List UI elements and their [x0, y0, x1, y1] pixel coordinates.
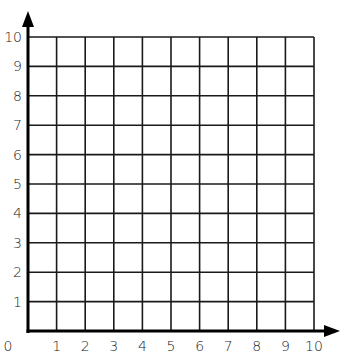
x-tick-label: 8 — [252, 338, 261, 353]
y-tick-label: 1 — [13, 294, 22, 310]
x-axis-labels: 012345678910 — [4, 338, 323, 353]
x-tick-label: 9 — [281, 338, 290, 353]
x-tick-label: 4 — [138, 338, 147, 353]
x-tick-label: 6 — [195, 338, 204, 353]
y-tick-label: 8 — [13, 88, 22, 104]
grid-lines — [28, 37, 314, 331]
y-axis-arrow-icon — [22, 11, 34, 27]
x-tick-label: 2 — [81, 338, 90, 353]
y-tick-label: 10 — [4, 29, 22, 45]
y-tick-label: 6 — [13, 147, 22, 163]
y-tick-label: 2 — [13, 264, 22, 280]
x-tick-label: 3 — [109, 338, 118, 353]
x-tick-label: 10 — [305, 338, 323, 353]
x-axis-arrow-icon — [324, 325, 340, 337]
y-axis-labels: 12345678910 — [4, 29, 22, 310]
x-tick-label: 7 — [224, 338, 233, 353]
coordinate-grid: 012345678910 12345678910 — [0, 0, 343, 353]
y-tick-label: 5 — [13, 176, 22, 192]
x-tick-label: 0 — [4, 338, 13, 353]
x-tick-label: 5 — [167, 338, 176, 353]
grid-canvas: 012345678910 12345678910 — [0, 0, 343, 353]
y-tick-label: 7 — [13, 117, 22, 133]
axes — [22, 11, 340, 337]
x-tick-label: 1 — [52, 338, 61, 353]
y-tick-label: 4 — [13, 205, 22, 221]
y-tick-label: 9 — [13, 58, 22, 74]
y-tick-label: 3 — [13, 235, 22, 251]
